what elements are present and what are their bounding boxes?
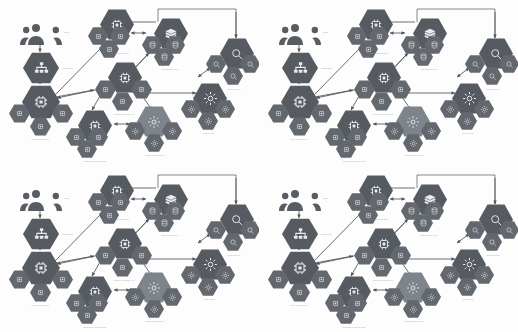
gear-icon (204, 117, 213, 126)
gear-icon (147, 115, 161, 129)
edge-search-control (198, 68, 210, 77)
chip-icon (331, 133, 340, 142)
edge-center-bottomleft (351, 96, 359, 110)
control-sat-3[interactable] (198, 112, 218, 130)
core-top-caption: Primary Compute Node (109, 218, 129, 220)
chip-icon (15, 275, 24, 284)
database-icon (419, 218, 428, 228)
chip-icon (295, 288, 304, 297)
settings-caption: Configuration Service (146, 154, 165, 156)
edge-search-control (198, 234, 210, 243)
settings-caption: Configuration Service (146, 320, 165, 322)
edge-center-coreleft (316, 90, 354, 98)
cpu-chip-icon (377, 71, 391, 85)
hexagon-network-diagram: Users Organization (0, 0, 259, 166)
org-chart-node[interactable] (282, 218, 318, 250)
edge-coreleft-coretop (55, 212, 103, 261)
control-sat-3[interactable] (457, 278, 477, 296)
search-icon (471, 226, 480, 235)
cpu-chip-icon (118, 71, 132, 85)
core-top-caption: Primary Compute Node (368, 218, 388, 220)
gear-icon (390, 127, 399, 136)
search-icon (229, 72, 238, 81)
cpu-chip-icon (292, 260, 308, 276)
search-sat-3[interactable] (223, 67, 243, 85)
search-sat-3[interactable] (482, 67, 502, 85)
actor-label: Users (323, 31, 328, 33)
chip-icon (331, 299, 340, 308)
core-left-caption: Core Processor Unit (31, 304, 48, 306)
search-icon (246, 226, 255, 235)
edge-coreleft-center (315, 256, 353, 263)
search-caption: Search Service (486, 254, 499, 256)
data-stack-caption: Data Storage Layer (162, 234, 179, 236)
settings-sat-3[interactable] (403, 300, 423, 318)
gear-icon (168, 293, 177, 302)
gear-icon (221, 271, 230, 280)
chip-icon (342, 311, 351, 320)
users-group-icon (279, 184, 321, 214)
search-icon (229, 238, 238, 247)
chip-icon (375, 198, 384, 207)
chip-icon (360, 85, 369, 94)
search-icon (488, 72, 497, 81)
data-stack-caption: Data Storage Layer (162, 68, 179, 70)
edge-coreleft-coretop (314, 46, 362, 95)
diagram-tile: Users Organization (0, 0, 259, 166)
search-caption: Search Service (486, 88, 499, 90)
chip-icon (353, 32, 362, 41)
search-icon (488, 238, 497, 247)
chip-icon (101, 251, 110, 260)
control-sat-3[interactable] (457, 112, 477, 130)
edge-coreleft-center (56, 256, 94, 263)
org-chart-node[interactable] (282, 52, 318, 84)
control-sat-3[interactable] (198, 278, 218, 296)
search-icon (505, 226, 514, 235)
search-sat-3[interactable] (223, 233, 243, 251)
core-left-caption: Core Processor Unit (290, 304, 307, 306)
core-center-sat-3[interactable] (371, 92, 392, 111)
core-left-sat-3[interactable] (289, 283, 310, 302)
cpu-chip-icon (33, 260, 49, 276)
cpu-chip-icon (33, 94, 49, 110)
chip-icon (116, 32, 125, 41)
gear-icon (150, 139, 159, 148)
org-label: Organization (62, 67, 73, 69)
core-left-sat-3[interactable] (289, 117, 310, 136)
gear-icon (131, 127, 140, 136)
core-center-sat-3[interactable] (112, 92, 133, 111)
core-center-sat-3[interactable] (371, 258, 392, 277)
settings-sat-3[interactable] (144, 134, 164, 152)
org-chart-node[interactable] (23, 52, 59, 84)
gear-icon (463, 117, 472, 126)
org-chart-node[interactable] (23, 218, 59, 250)
search-caption: Search Service (227, 254, 240, 256)
chip-icon (36, 122, 45, 131)
edge-coreleft-center (315, 90, 353, 97)
settings-sat-3[interactable] (144, 300, 164, 318)
chip-icon (353, 299, 362, 308)
database-icon (430, 206, 439, 216)
chip-icon (118, 97, 127, 106)
actor-label: Users (64, 197, 69, 199)
core-top-caption: Primary Compute Node (109, 52, 129, 54)
chip-icon (342, 145, 351, 154)
core-left-sat-3[interactable] (30, 283, 51, 302)
search-sat-3[interactable] (482, 233, 502, 251)
users-group-icon (279, 18, 321, 48)
settings-sat-3[interactable] (403, 134, 423, 152)
search-icon (489, 47, 503, 61)
diagram-canvas: Users Organization (0, 0, 518, 332)
search-icon (230, 213, 244, 227)
chip-icon (353, 133, 362, 142)
cpu-chip-icon (292, 94, 308, 110)
gear-icon (446, 105, 455, 114)
hexagon-network-diagram: Users Organization (259, 0, 518, 166)
core-left-sat-3[interactable] (30, 117, 51, 136)
gear-icon (390, 293, 399, 302)
database-icon (419, 52, 428, 62)
chip-icon (94, 133, 103, 142)
core-bottom-caption: Secondary Compute Node (343, 326, 366, 328)
core-center-sat-3[interactable] (112, 258, 133, 277)
org-label: Organization (321, 67, 332, 69)
